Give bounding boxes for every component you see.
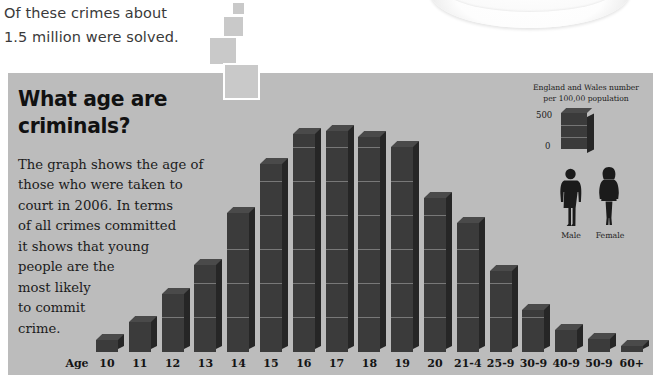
bar-11[interactable] (129, 322, 151, 352)
legend-key-bar-side (587, 114, 594, 153)
bar-face (96, 340, 118, 352)
axis-tick-25-9: 25-9 (483, 357, 519, 370)
bar-segment-line (326, 147, 348, 148)
bar-side (380, 131, 386, 349)
axis-tick-11: 11 (122, 357, 158, 370)
legend: England and Wales number per 100,00 popu… (527, 82, 645, 105)
bar-face (457, 223, 479, 352)
axis-title: Age (62, 357, 92, 370)
bar-20[interactable] (424, 198, 446, 352)
bar-13[interactable] (194, 265, 216, 352)
bar-side (446, 192, 452, 349)
bar-face (588, 339, 610, 352)
bar-side (479, 217, 485, 349)
axis-tick-60+: 60+ (614, 357, 650, 370)
bar-segment-line (260, 317, 282, 318)
bar-25-9[interactable] (490, 271, 512, 352)
bar-face (227, 213, 249, 352)
bar-50-9[interactable] (588, 339, 610, 352)
bar-face (555, 330, 577, 352)
bar-16[interactable] (293, 134, 315, 352)
axis-tick-30-9: 30-9 (515, 357, 551, 370)
legend-line-1: England and Wales number (527, 82, 645, 93)
axis-tick-18: 18 (351, 357, 387, 370)
bar-segment-line (358, 317, 380, 318)
bar-segment-line (522, 317, 544, 318)
axis-tick-13: 13 (187, 357, 223, 370)
bar-segment-line (194, 283, 216, 284)
bar-segment-line (424, 283, 446, 284)
axis-tick-15: 15 (253, 357, 289, 370)
bar-face (522, 310, 544, 352)
axis-tick-21-4: 21-4 (450, 357, 486, 370)
bar-segment-line (293, 215, 315, 216)
bar-side (544, 304, 550, 349)
bar-side (348, 125, 354, 349)
bar-segment-line (424, 317, 446, 318)
bar-18[interactable] (358, 137, 380, 352)
axis-tick-20: 20 (417, 357, 453, 370)
bar-segment-line (227, 283, 249, 284)
bar-segment-line (326, 249, 348, 250)
bar-segment-line (391, 283, 413, 284)
bar-14[interactable] (227, 213, 249, 352)
bar-segment-line (260, 215, 282, 216)
bar-segment-line (358, 249, 380, 250)
bar-segment-line (260, 283, 282, 284)
bar-side (216, 259, 222, 349)
bar-face (391, 147, 413, 352)
bar-chart (0, 0, 653, 383)
bar-face (326, 131, 348, 352)
legend-key-bar (561, 113, 587, 149)
bar-segment-line (391, 249, 413, 250)
bar-segment-line (227, 317, 249, 318)
female-label: Female (589, 231, 631, 240)
bar-60+[interactable] (621, 346, 643, 352)
axis-tick-12: 12 (155, 357, 191, 370)
bar-segment-line (490, 283, 512, 284)
legend-key-bar-top (561, 108, 592, 113)
bar-side (184, 288, 190, 349)
bar-face (490, 271, 512, 352)
bar-side (249, 207, 255, 349)
bar-face (358, 137, 380, 352)
bar-segment-line (358, 283, 380, 284)
axis-tick-19: 19 (384, 357, 420, 370)
bar-segment-line (326, 317, 348, 318)
bar-17[interactable] (326, 131, 348, 352)
bar-segment-line (391, 181, 413, 182)
bar-19[interactable] (391, 147, 413, 352)
axis-tick-50-9: 50-9 (581, 357, 617, 370)
bar-10[interactable] (96, 340, 118, 352)
bar-side (315, 128, 321, 349)
legend-scale-min: 0 (545, 141, 550, 151)
bar-segment-line (457, 249, 479, 250)
bar-40-9[interactable] (555, 330, 577, 352)
bar-face (293, 134, 315, 352)
bar-segment-line (358, 215, 380, 216)
bar-face (260, 164, 282, 352)
bar-segment-line (457, 317, 479, 318)
bar-segment-line (293, 181, 315, 182)
legend-key-bar-segment (561, 125, 587, 126)
bar-segment-line (293, 317, 315, 318)
bar-segment-line (293, 147, 315, 148)
bar-12[interactable] (162, 294, 184, 352)
bar-face (621, 346, 643, 352)
bar-15[interactable] (260, 164, 282, 352)
bar-side (512, 266, 518, 349)
axis-tick-14: 14 (220, 357, 256, 370)
bar-side (413, 141, 419, 349)
male-label: Male (553, 231, 589, 240)
bar-segment-line (358, 181, 380, 182)
bar-segment-line (391, 215, 413, 216)
bar-segment-line (391, 317, 413, 318)
bar-21-4[interactable] (457, 223, 479, 352)
axis-tick-16: 16 (286, 357, 322, 370)
bar-segment-line (326, 181, 348, 182)
bar-30-9[interactable] (522, 310, 544, 352)
bar-segment-line (293, 249, 315, 250)
bar-segment-line (326, 283, 348, 284)
bar-segment-line (260, 181, 282, 182)
bar-segment-line (490, 317, 512, 318)
